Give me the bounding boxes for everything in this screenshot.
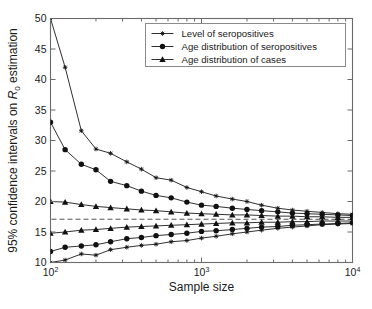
x-tick-label: 103 [194,266,210,278]
marker-circle [199,202,204,207]
marker-circle [108,239,113,244]
marker-circle [160,44,165,49]
marker-circle [244,207,249,212]
marker-circle [259,224,264,229]
chart-canvas: 102103104 101520253035404550 Level of se… [0,0,372,309]
figure-container: 102103104 101520253035404550 Level of se… [0,0,372,309]
y-tick-label: 40 [35,73,47,85]
marker-circle [139,188,144,193]
marker-circle [48,249,53,254]
series-2 [48,120,355,219]
marker-circle [139,235,144,240]
marker-circle [124,236,129,241]
y-tick-label: 20 [35,195,47,207]
marker-circle [62,245,67,250]
y-axis-title: 95% confidence intervals on R0 estimatio… [6,28,22,253]
marker-circle [93,242,98,247]
y-tick-label: 15 [35,226,47,238]
marker-circle [62,147,67,152]
marker-circle [169,232,174,237]
legend-label: Level of seropositives [182,28,274,39]
y-tick-label: 50 [35,12,47,24]
marker-circle [153,233,158,238]
marker-circle [124,183,129,188]
marker-circle [184,231,189,236]
marker-circle [199,229,204,234]
marker-circle [230,227,235,232]
marker-circle [184,199,189,204]
marker-circle [93,167,98,172]
marker-circle [169,195,174,200]
marker-circle [244,226,249,231]
series-4 [47,198,355,220]
x-axis-title: Sample size [169,280,235,294]
chart-legend[interactable]: Level of seropositivesAge distribution o… [146,24,346,67]
marker-circle [48,120,53,125]
marker-circle [153,193,158,198]
y-tick-label: 25 [35,165,47,177]
marker-circle [213,228,218,233]
marker-circle [79,162,84,167]
legend-label: Age distribution of seropositives [182,41,318,52]
y-tick-label: 45 [35,43,47,55]
y-tick-label: 30 [35,134,47,146]
marker-circle [230,206,235,211]
marker-circle [79,243,84,248]
x-tick-label: 104 [345,266,361,278]
axis-titles: Sample size95% confidence intervals on R… [6,28,235,294]
marker-circle [213,204,218,209]
y-tick-label: 10 [35,256,47,268]
legend-label: Age distribution of cases [182,54,287,65]
marker-circle [108,179,113,184]
y-tick-label: 35 [35,104,47,116]
